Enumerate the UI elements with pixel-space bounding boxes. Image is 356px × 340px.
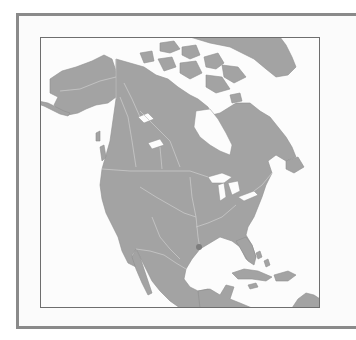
cuba	[232, 269, 272, 281]
map-frame	[40, 37, 320, 308]
arctic-island	[140, 51, 154, 63]
coastal-island	[96, 131, 100, 141]
hispaniola	[274, 271, 296, 281]
arctic-island	[182, 45, 200, 59]
location-marker	[196, 244, 202, 250]
jamaica	[248, 283, 258, 289]
arctic-island	[204, 53, 224, 69]
arctic-island	[160, 41, 180, 53]
arctic-island	[180, 61, 202, 79]
bahamas	[256, 251, 262, 259]
alaska	[50, 55, 116, 115]
bahamas	[264, 259, 270, 267]
north-america-map	[40, 37, 320, 308]
florida	[236, 237, 256, 265]
arctic-island	[222, 65, 246, 83]
south-america-corner	[292, 293, 320, 308]
central-america	[198, 285, 252, 308]
arctic-island	[158, 57, 176, 71]
mainland	[100, 59, 296, 308]
arctic-island	[230, 93, 242, 103]
